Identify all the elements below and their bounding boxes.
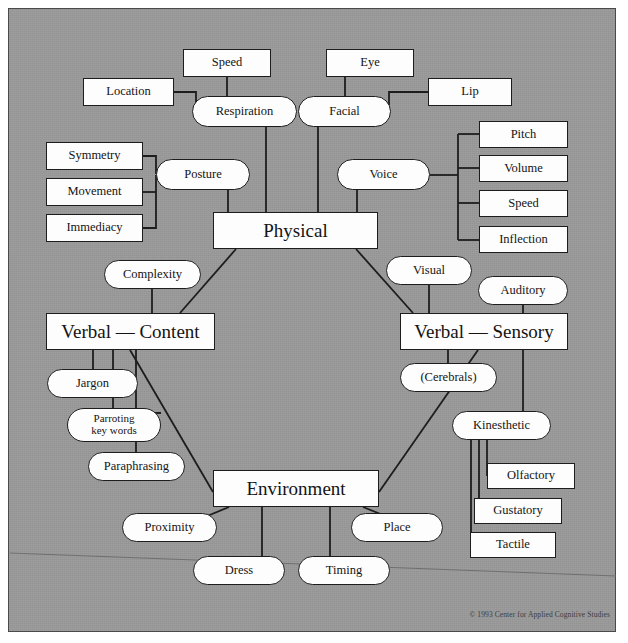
node-posture[interactable]: Posture [156,159,250,190]
node-label: (Cerebrals) [420,371,476,384]
copyright-notice: © 1993 Center for Applied Cognitive Stud… [470,610,610,619]
node-label: Posture [184,168,222,181]
node-label: Verbal — Content [61,322,199,342]
node-movement[interactable]: Movement [46,178,143,206]
node-label: Symmetry [68,149,120,162]
node-voice[interactable]: Voice [337,159,430,190]
node-eye[interactable]: Eye [326,49,414,77]
node-jargon[interactable]: Jargon [47,369,138,398]
node-label: Timing [326,564,362,577]
node-label: Tactile [496,538,530,551]
node-label: Volume [504,162,543,175]
node-inflection[interactable]: Inflection [479,226,568,253]
node-label: Place [383,521,410,534]
node-label: Facial [329,105,360,118]
node-label: Dress [225,564,253,577]
node-olfactory[interactable]: Olfactory [487,463,575,489]
node-label: Lip [461,85,478,98]
node-respiration[interactable]: Respiration [192,96,297,127]
node-label: Kinesthetic [473,419,530,432]
node-label: Voice [369,168,397,181]
node-label: Respiration [216,105,274,118]
node-auditory[interactable]: Auditory [478,276,568,305]
node-cerebrals[interactable]: (Cerebrals) [400,363,497,392]
node-label: Jargon [76,377,109,390]
node-tactile[interactable]: Tactile [470,532,556,558]
node-symmetry[interactable]: Symmetry [46,142,143,170]
node-pitch[interactable]: Pitch [479,121,568,148]
node-label: Pitch [511,128,537,141]
node-label: Verbal — Sensory [414,322,553,342]
node-label: Proximity [144,521,194,534]
node-visual[interactable]: Visual [386,256,472,285]
node-label: Eye [360,56,379,69]
node-label: Physical [263,221,327,241]
node-label: Complexity [123,268,182,281]
node-verbal-sensory[interactable]: Verbal — Sensory [400,313,568,350]
node-label: Speed [508,197,539,210]
node-proximity[interactable]: Proximity [122,513,217,542]
node-label: Movement [67,185,121,198]
node-label: Paraphrasing [104,460,169,473]
node-environment[interactable]: Environment [213,470,379,507]
node-label: Auditory [500,284,545,297]
node-label: Speed [212,56,243,69]
node-physical[interactable]: Physical [213,212,378,249]
node-label: Olfactory [507,469,555,482]
node-location[interactable]: Location [83,78,174,106]
node-gustatory[interactable]: Gustatory [474,498,562,524]
node-label: Location [106,85,150,98]
node-complexity[interactable]: Complexity [104,260,201,289]
node-speed-voice[interactable]: Speed [479,190,568,217]
node-label: Inflection [499,233,548,246]
node-label: Parroting key words [91,413,137,436]
node-timing[interactable]: Timing [298,556,390,585]
node-place[interactable]: Place [351,513,443,542]
node-facial[interactable]: Facial [298,96,391,127]
node-kinesthetic[interactable]: Kinesthetic [452,411,551,440]
node-verbal-content[interactable]: Verbal — Content [46,313,215,350]
diagram-page: Speed Location Respiration Eye Lip Facia… [0,0,628,643]
node-speed-respiration[interactable]: Speed [183,49,271,77]
node-label: Gustatory [493,504,542,517]
node-lip[interactable]: Lip [428,78,512,106]
node-parroting-key-words[interactable]: Parroting key words [67,408,161,442]
node-dress[interactable]: Dress [193,556,285,585]
node-label: Immediacy [66,221,122,234]
node-paraphrasing[interactable]: Paraphrasing [88,452,185,481]
node-label: Visual [413,264,445,277]
node-label: Environment [246,479,345,499]
node-volume[interactable]: Volume [479,155,568,182]
node-immediacy[interactable]: Immediacy [46,214,143,242]
